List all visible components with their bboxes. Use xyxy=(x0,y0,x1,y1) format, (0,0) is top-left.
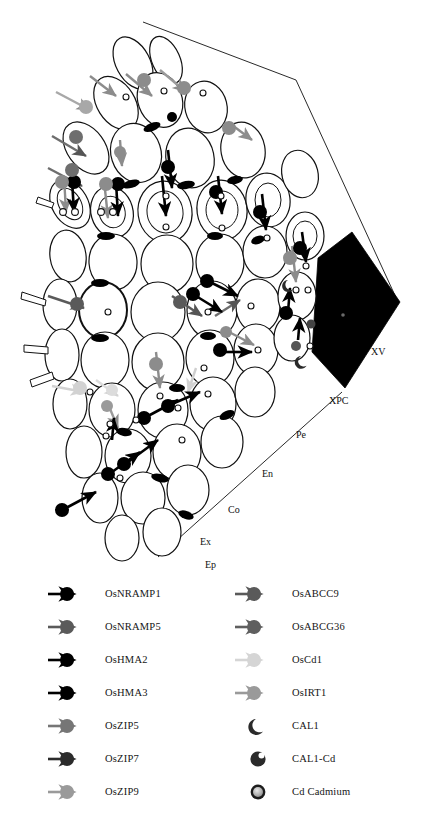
legend-label-oshma3: OsHMA3 xyxy=(105,687,148,698)
legend-label-osirt1: OsIRT1 xyxy=(292,687,326,698)
legend-glyph-oshma3 xyxy=(48,686,74,700)
xylem-vessel xyxy=(312,232,400,388)
legend-label-oszip9: OsZIP9 xyxy=(105,786,139,797)
legend-label-osnramp5: OsNRAMP5 xyxy=(105,621,161,632)
tissue-label-Pe: Pe xyxy=(296,429,307,440)
legend-glyph-oshma2 xyxy=(48,653,74,667)
tissue-label-XPC: XPC xyxy=(329,395,349,406)
legend-glyph-osnramp5 xyxy=(48,620,74,634)
tissue-label-Co: Co xyxy=(228,504,240,515)
legend-glyph-cal1-cd xyxy=(250,751,265,766)
legend-glyph-oscd1 xyxy=(235,653,261,667)
tissue-label-En: En xyxy=(262,468,273,479)
legend-label-cal1: CAL1 xyxy=(292,720,319,731)
legend-label-cal1-cd: CAL1-Cd xyxy=(292,753,335,764)
legend-glyph-osnramp1 xyxy=(48,587,74,601)
tissue-label-Ep: Ep xyxy=(205,559,216,570)
tissue-label-XV: XV xyxy=(371,346,386,357)
legend-glyph-osabcc9 xyxy=(235,587,261,601)
legend-glyph-cd-cadmium xyxy=(251,785,266,800)
legend-svg xyxy=(0,585,426,815)
legend-glyph-cal1 xyxy=(248,719,263,735)
legend-label-oscd1: OsCd1 xyxy=(292,654,322,665)
legend-label-cd-cadmium: Cd Cadmium xyxy=(292,786,350,797)
legend-glyph-oszip9 xyxy=(48,785,74,799)
legend-label-oshma2: OsHMA2 xyxy=(105,654,148,665)
legend-label-osabcc9: OsABCC9 xyxy=(292,588,339,599)
tissue-label-Ex: Ex xyxy=(200,536,211,547)
legend-label-oszip7: OsZIP7 xyxy=(105,753,139,764)
legend-label-osabcg36: OsABCG36 xyxy=(292,621,345,632)
legend-glyph-osirt1 xyxy=(235,686,261,700)
root-cd-transport-figure: Ep Ex Co En Pe XPC XV xyxy=(0,0,426,820)
legend-glyph-oszip7 xyxy=(48,752,74,766)
legend-glyph-osabcg36 xyxy=(235,620,261,634)
legend-label-osnramp1: OsNRAMP1 xyxy=(105,588,161,599)
legend-label-oszip5: OsZIP5 xyxy=(105,720,139,731)
legend-glyph-oszip5 xyxy=(48,719,74,733)
